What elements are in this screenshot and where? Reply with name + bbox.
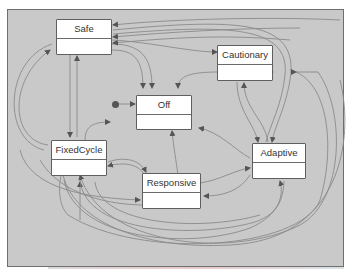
state-adaptive[interactable]: Adaptive xyxy=(252,143,306,179)
state-cautionary-label: Cautionary xyxy=(218,46,272,65)
state-fixedcycle-label: FixedCycle xyxy=(52,141,106,160)
state-adaptive-label: Adaptive xyxy=(253,144,305,163)
state-safe-label: Safe xyxy=(57,20,111,39)
state-cautionary[interactable]: Cautionary xyxy=(217,45,273,81)
state-responsive[interactable]: Responsive xyxy=(142,173,201,209)
state-off-label: Off xyxy=(137,96,191,115)
state-fixedcycle[interactable]: FixedCycle xyxy=(51,140,107,176)
initial-state-dot xyxy=(112,101,119,108)
transition-edges xyxy=(0,0,352,276)
state-responsive-label: Responsive xyxy=(143,174,200,193)
state-safe[interactable]: Safe xyxy=(56,19,112,55)
state-off[interactable]: Off xyxy=(136,95,192,130)
